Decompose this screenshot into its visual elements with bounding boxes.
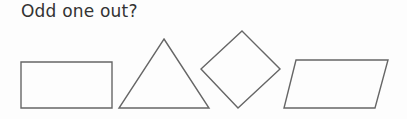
parallelogram-shape[interactable] (284, 60, 388, 108)
rectangle-shape[interactable] (21, 62, 112, 108)
triangle-shape[interactable] (119, 39, 209, 108)
shapes-row (0, 0, 407, 119)
diamond-shape[interactable] (201, 31, 280, 108)
